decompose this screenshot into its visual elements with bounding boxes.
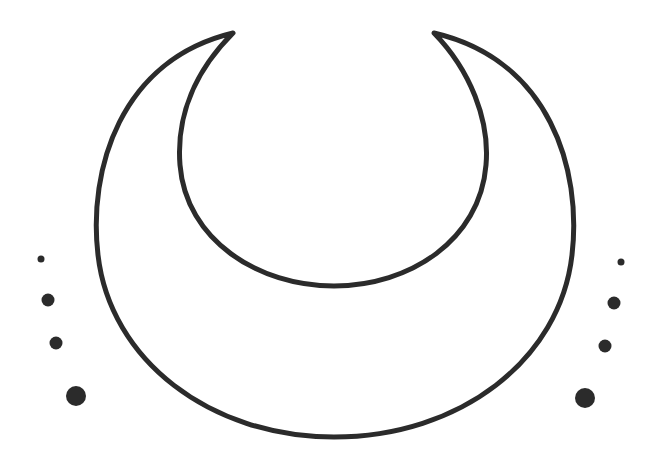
dot-icon — [608, 297, 621, 310]
crescent-outline — [96, 33, 573, 437]
dots-right — [575, 259, 625, 409]
dot-icon — [66, 386, 86, 406]
dots-left — [38, 256, 87, 407]
dot-icon — [618, 259, 625, 266]
dot-icon — [575, 388, 595, 408]
illustration-canvas — [0, 0, 663, 462]
dot-icon — [50, 337, 63, 350]
dot-icon — [42, 294, 55, 307]
dot-icon — [38, 256, 45, 263]
dot-icon — [599, 340, 612, 353]
crescent-moon-icon — [0, 0, 663, 462]
